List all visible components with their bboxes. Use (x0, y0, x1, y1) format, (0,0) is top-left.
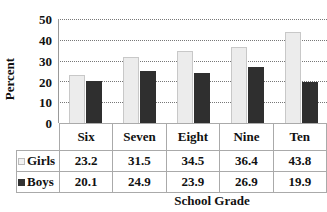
x-axis-title: School Grade (150, 193, 274, 209)
girls-value-seven: 31.5 (113, 151, 167, 172)
legend-girls: Girls (17, 151, 60, 172)
girls-value-ten: 43.8 (273, 151, 326, 172)
boys-swatch-icon (18, 179, 25, 186)
y-axis-title: Percent (2, 58, 18, 100)
bar-girls-eight (177, 51, 193, 123)
y-tick-30: 30 (26, 55, 52, 68)
category-eight: Eight (166, 124, 219, 151)
plot-area (58, 19, 327, 123)
bar-girls-six (69, 75, 85, 123)
y-tick-10: 10 (26, 96, 52, 109)
legend-boys-label: Boys (27, 174, 54, 189)
legend-girls-label: Girls (27, 153, 55, 168)
boys-value-seven: 24.9 (113, 172, 167, 193)
bar-girls-nine (231, 47, 247, 123)
table-row-girls: Girls 23.2 31.5 34.5 36.4 43.8 (17, 151, 327, 172)
table-header-row: Six Seven Eight Nine Ten (17, 124, 327, 151)
data-table: Six Seven Eight Nine Ten Girls 23.2 31.5… (16, 123, 327, 193)
girls-value-nine: 36.4 (220, 151, 273, 172)
y-tick-20: 20 (26, 76, 52, 89)
girls-swatch-icon (18, 158, 25, 165)
boys-value-six: 20.1 (59, 172, 112, 193)
boys-value-ten: 19.9 (273, 172, 326, 193)
legend-boys: Boys (17, 172, 60, 193)
category-nine: Nine (220, 124, 273, 151)
girls-value-six: 23.2 (59, 151, 112, 172)
boys-value-nine: 26.9 (220, 172, 273, 193)
table-row-boys: Boys 20.1 24.9 23.9 26.9 19.9 (17, 172, 327, 193)
table-corner (17, 124, 60, 151)
category-ten: Ten (273, 124, 326, 151)
bar-boys-eight (194, 73, 210, 123)
boys-value-eight: 23.9 (166, 172, 219, 193)
girls-value-eight: 34.5 (166, 151, 219, 172)
bar-boys-six (86, 81, 102, 123)
y-axis-line (58, 19, 59, 123)
y-tick-40: 40 (26, 34, 52, 47)
y-tick-50: 50 (26, 13, 52, 26)
bar-boys-nine (248, 67, 264, 123)
bar-girls-ten (285, 32, 301, 123)
y-axis-label: Percent (3, 72, 17, 86)
bar-boys-seven (140, 71, 156, 123)
category-six: Six (59, 124, 112, 151)
category-seven: Seven (113, 124, 167, 151)
bar-girls-seven (123, 57, 139, 123)
gridline-50 (58, 19, 327, 20)
bar-boys-ten (302, 82, 318, 123)
